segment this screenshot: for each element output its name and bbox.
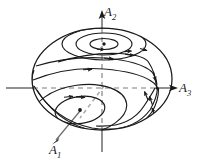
fixed-point-center-a1 xyxy=(78,108,82,112)
heteroclinic-mid-arrow xyxy=(83,69,92,70)
orbit-arrow-a2-mid xyxy=(124,51,132,52)
axis-label-a2: A2 xyxy=(104,4,116,22)
heteroclinic-upper xyxy=(36,58,157,87)
heteroclinic-upper-arrow xyxy=(104,58,113,59)
phase-portrait-canvas xyxy=(0,0,201,162)
heteroclinic-inner-arrow xyxy=(145,92,149,101)
axis-label-a3-subscript: 3 xyxy=(187,88,191,98)
orbit-arrow-a1-outer xyxy=(64,96,73,97)
axis-label-a1: A1 xyxy=(49,142,61,160)
phase-portrait-figure: A2 A3 A1 xyxy=(0,0,201,162)
fixed-point-center-a2 xyxy=(102,42,105,45)
fixed-point-saddle-a3 xyxy=(155,86,158,89)
axis-label-a1-subscript: 1 xyxy=(57,150,61,160)
orbit-arrow-a1-inner xyxy=(76,97,85,98)
axis-label-a2-subscript: 2 xyxy=(112,12,116,22)
axis-label-a3: A3 xyxy=(179,80,191,98)
